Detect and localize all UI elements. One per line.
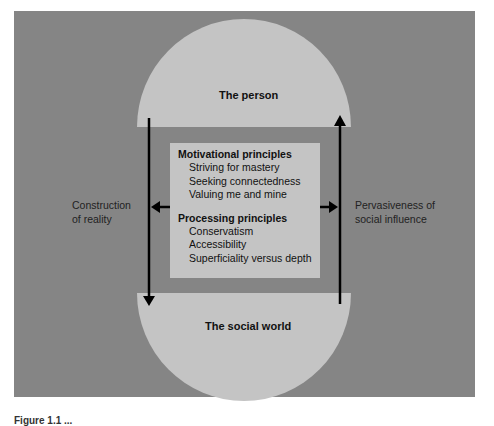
- right-arrow-icon: [320, 201, 338, 213]
- down-arrow-icon: [143, 118, 155, 306]
- figure-caption: Figure 1.1 ...: [14, 415, 72, 426]
- left-arrow-icon: [151, 201, 170, 213]
- up-arrow-icon: [334, 115, 346, 304]
- pervasiveness-label: Pervasiveness of social influence: [355, 199, 435, 226]
- construction-of-reality-label: Construction of reality: [72, 199, 131, 226]
